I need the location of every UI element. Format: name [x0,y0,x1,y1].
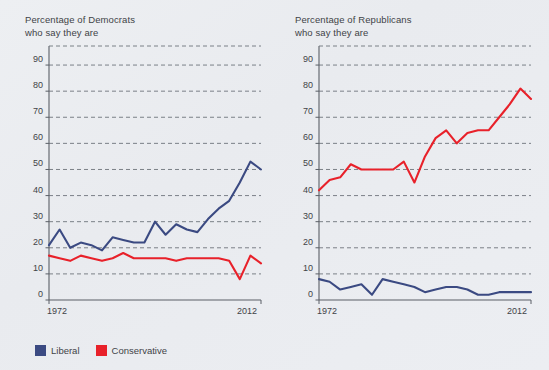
y-axis-tick-label: 80 [293,80,313,90]
legend-entry-liberal: Liberal [35,345,80,356]
y-axis-tick-label: 0 [23,289,43,299]
y-axis-tick-label: 0 [293,289,313,299]
plot-area-republicans: 908070605040302010019722012 [292,44,535,334]
x-axis-tick-label: 1972 [317,306,337,316]
legend-swatch-liberal-icon [35,345,46,356]
figure-canvas: Percentage of Democrats who say they are… [0,0,549,370]
y-axis-tick-label: 20 [23,237,43,247]
y-axis-tick-label: 30 [23,211,43,221]
y-axis-tick-label: 70 [23,106,43,116]
y-axis-tick-label: 90 [23,54,43,64]
chart-panel-democrats: Percentage of Democrats who say they are… [22,14,268,340]
x-axis-tick-label: 2012 [237,306,257,316]
y-axis-tick-label: 80 [23,80,43,90]
x-axis-tick-label: 1972 [47,306,67,316]
panel-title-democrats: Percentage of Democrats who say they are [25,14,268,39]
y-axis-tick-label: 40 [23,185,43,195]
y-axis-tick-label: 50 [23,158,43,168]
y-axis-tick-label: 10 [293,263,313,273]
x-axis-tick-label: 2012 [507,306,527,316]
y-axis-tick-label: 90 [293,54,313,64]
plot-area-democrats: 908070605040302010019722012 [22,44,265,334]
plot-svg-republicans [292,44,535,334]
y-axis-tick-label: 70 [293,106,313,116]
y-axis-tick-label: 60 [23,132,43,142]
y-axis-tick-label: 50 [293,158,313,168]
legend-entry-conservative: Conservative [96,345,167,356]
legend-swatch-conservative-icon [96,345,107,356]
y-axis-tick-label: 20 [293,237,313,247]
legend-label-liberal: Liberal [51,345,80,356]
chart-panel-republicans: Percentage of Republicans who say they a… [292,14,538,340]
y-axis-tick-label: 40 [293,185,313,195]
legend-label-conservative: Conservative [112,345,167,356]
chart-legend: Liberal Conservative [35,345,176,356]
y-axis-tick-label: 60 [293,132,313,142]
plot-svg-democrats [22,44,265,334]
y-axis-tick-label: 10 [23,263,43,273]
panel-title-republicans: Percentage of Republicans who say they a… [295,14,538,39]
y-axis-tick-label: 30 [293,211,313,221]
